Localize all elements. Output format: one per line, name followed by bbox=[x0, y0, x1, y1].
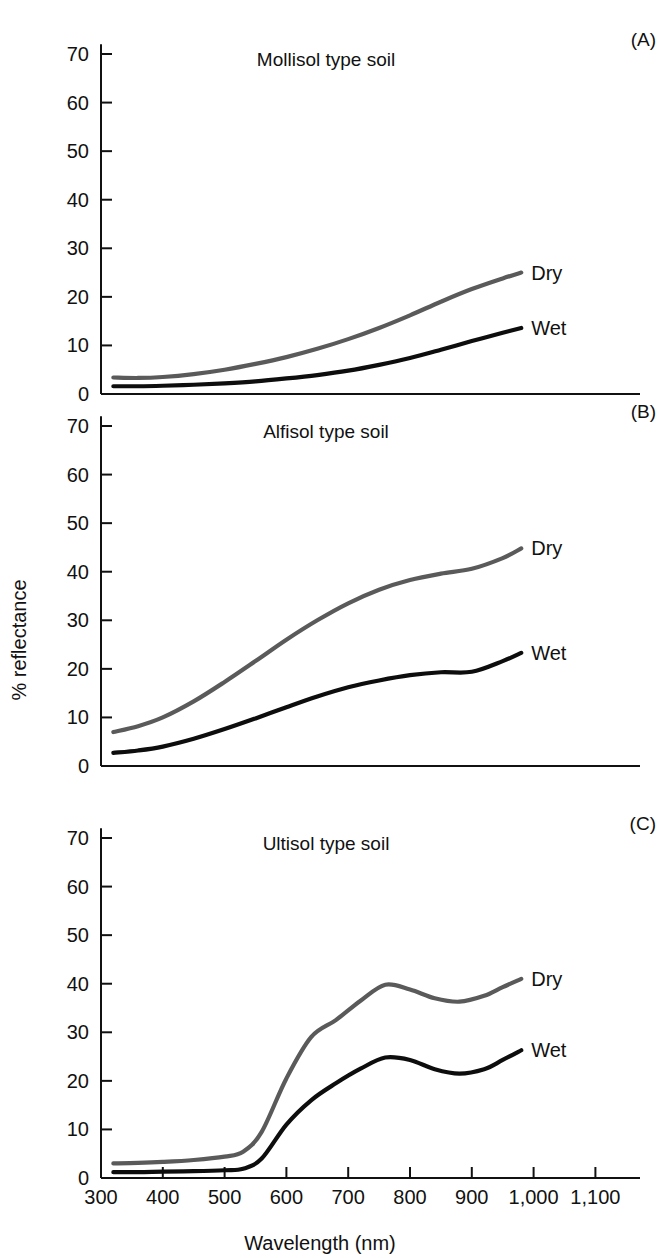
y-tick-label: 20 bbox=[67, 286, 89, 308]
x-tick-label: 900 bbox=[455, 1186, 488, 1208]
x-tick-label: 600 bbox=[270, 1186, 303, 1208]
panel-title: Alfisol type soil bbox=[263, 421, 389, 442]
y-tick-label: 20 bbox=[67, 1070, 89, 1092]
x-axis-title: Wavelength (nm) bbox=[244, 1232, 396, 1254]
y-tick-label: 40 bbox=[67, 973, 89, 995]
figure-canvas: % reflectance Wavelength (nm) 0102030405… bbox=[0, 0, 666, 1258]
y-tick-label: 50 bbox=[67, 924, 89, 946]
y-tick-label: 70 bbox=[67, 43, 89, 65]
figure-background bbox=[0, 0, 666, 1258]
x-tick-label: 800 bbox=[393, 1186, 426, 1208]
y-tick-label: 10 bbox=[67, 334, 89, 356]
y-tick-label: 70 bbox=[67, 827, 89, 849]
panel-tag: (C) bbox=[630, 813, 656, 834]
x-tick-label: 1,100 bbox=[570, 1186, 620, 1208]
y-tick-label: 40 bbox=[67, 189, 89, 211]
panel-tag: (A) bbox=[631, 29, 656, 50]
x-tick-label: 400 bbox=[146, 1186, 179, 1208]
y-axis-title: % reflectance bbox=[8, 579, 30, 700]
y-tick-label: 20 bbox=[67, 658, 89, 680]
x-tick-label: 1,000 bbox=[509, 1186, 559, 1208]
series-label-wet: Wet bbox=[531, 317, 567, 339]
series-label-wet: Wet bbox=[531, 1039, 567, 1061]
y-tick-label: 0 bbox=[78, 383, 89, 405]
y-tick-label: 0 bbox=[78, 755, 89, 777]
y-tick-label: 10 bbox=[67, 1118, 89, 1140]
series-label-dry: Dry bbox=[531, 262, 562, 284]
x-tick-label: 500 bbox=[208, 1186, 241, 1208]
series-label-dry: Dry bbox=[531, 968, 562, 990]
y-tick-label: 60 bbox=[67, 92, 89, 114]
y-tick-label: 30 bbox=[67, 609, 89, 631]
soil-reflectance-figure: % reflectance Wavelength (nm) 0102030405… bbox=[0, 0, 666, 1258]
y-tick-label: 60 bbox=[67, 876, 89, 898]
y-tick-label: 40 bbox=[67, 561, 89, 583]
x-tick-label: 700 bbox=[332, 1186, 365, 1208]
series-label-dry: Dry bbox=[531, 537, 562, 559]
panel-tag: (B) bbox=[631, 401, 656, 422]
panel-title: Ultisol type soil bbox=[263, 833, 390, 854]
y-tick-label: 30 bbox=[67, 1021, 89, 1043]
y-tick-label: 50 bbox=[67, 140, 89, 162]
y-tick-label: 30 bbox=[67, 237, 89, 259]
series-label-wet: Wet bbox=[531, 642, 567, 664]
x-tick-label: 300 bbox=[84, 1186, 117, 1208]
panel-title: Mollisol type soil bbox=[257, 49, 395, 70]
y-tick-label: 70 bbox=[67, 415, 89, 437]
y-tick-label: 60 bbox=[67, 464, 89, 486]
y-tick-label: 10 bbox=[67, 706, 89, 728]
y-tick-label: 50 bbox=[67, 512, 89, 534]
